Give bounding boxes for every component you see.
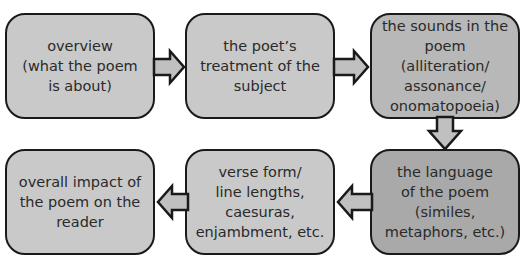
arrow-right-icon [334, 50, 370, 84]
arrow-left-icon [336, 185, 372, 219]
step-box-treatment: the poet’s treatment of the subject [185, 13, 335, 119]
step-box-sounds: the sounds in the poem (alliteration/ as… [370, 13, 520, 119]
step-box-verse-form: verse form/ line lengths, caesuras, enja… [185, 149, 335, 255]
arrow-left-icon [156, 185, 188, 219]
arrow-down-icon [428, 117, 462, 151]
step-label: the sounds in the poem (alliteration/ as… [380, 16, 510, 116]
step-label: overview (what the poem is about) [22, 36, 137, 96]
step-box-overview: overview (what the poem is about) [5, 13, 155, 119]
step-label: overall impact of the poem on the reader [19, 172, 141, 232]
arrow-right-icon [154, 50, 186, 84]
step-label: the language of the poem (similes, metap… [385, 162, 505, 242]
step-label: the poet’s treatment of the subject [200, 36, 320, 96]
step-box-language: the language of the poem (similes, metap… [370, 149, 520, 255]
step-box-overall-impact: overall impact of the poem on the reader [5, 149, 155, 255]
step-label: verse form/ line lengths, caesuras, enja… [196, 162, 325, 242]
